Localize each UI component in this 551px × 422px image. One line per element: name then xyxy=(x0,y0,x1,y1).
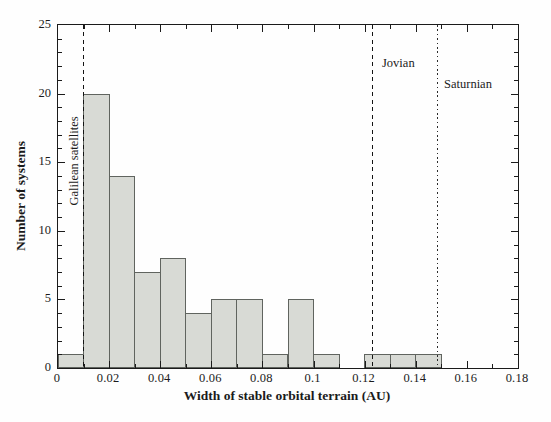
y-axis-tick xyxy=(58,66,62,67)
y-axis-tick xyxy=(58,190,62,191)
x-axis-tick xyxy=(186,25,187,29)
y-axis-tick xyxy=(58,272,62,273)
y-axis-tick xyxy=(58,148,62,149)
y-axis-tick xyxy=(58,52,62,53)
x-tick-label: 0.16 xyxy=(455,371,478,386)
x-tick-label: 0.06 xyxy=(199,371,222,386)
y-axis-tick xyxy=(514,341,518,342)
figure: Galilean satellitesJovianSaturnian Width… xyxy=(0,0,551,422)
y-axis-tick xyxy=(514,135,518,136)
reference-line-label: Saturnian xyxy=(444,77,492,92)
x-tick-label: 0.1 xyxy=(304,371,320,386)
x-tick-label: 0 xyxy=(54,371,60,386)
x-axis-tick xyxy=(262,361,263,368)
x-tick-label: 0.08 xyxy=(250,371,273,386)
x-axis-tick xyxy=(288,25,289,29)
x-axis-tick xyxy=(492,364,493,368)
x-axis-tick xyxy=(314,25,315,32)
reference-line-galilean-satellites xyxy=(83,25,85,368)
x-axis-tick xyxy=(262,25,263,32)
y-tick-label: 20 xyxy=(27,85,51,100)
reference-line-label: Galilean satellites xyxy=(67,116,82,205)
reference-line-jovian xyxy=(372,25,374,368)
x-axis-tick xyxy=(441,25,442,29)
y-axis-tick xyxy=(514,121,518,122)
y-tick-label: 10 xyxy=(27,222,51,237)
y-tick-label: 15 xyxy=(27,154,51,169)
histogram-bar xyxy=(160,258,187,368)
x-tick-label: 0.04 xyxy=(148,371,171,386)
x-axis-tick xyxy=(365,25,366,32)
x-axis-tick xyxy=(390,364,391,368)
y-axis-tick xyxy=(514,176,518,177)
x-axis-tick xyxy=(339,364,340,368)
y-axis-tick xyxy=(514,107,518,108)
x-axis-tick xyxy=(416,361,417,368)
x-axis-tick xyxy=(109,361,110,368)
x-axis-tick xyxy=(84,364,85,368)
histogram-bar xyxy=(236,299,263,368)
reference-line-label: Jovian xyxy=(382,56,415,71)
x-tick-label: 0.12 xyxy=(352,371,375,386)
y-axis-tick xyxy=(58,341,62,342)
x-axis-tick xyxy=(135,25,136,29)
y-axis-tick xyxy=(514,148,518,149)
y-axis-tick xyxy=(58,217,62,218)
y-axis-tick xyxy=(514,52,518,53)
histogram-bar xyxy=(364,354,391,368)
x-axis-tick xyxy=(160,361,161,368)
y-axis-tick xyxy=(58,162,65,163)
y-axis-tick xyxy=(58,313,62,314)
y-axis-tick xyxy=(514,327,518,328)
x-axis-tick xyxy=(365,361,366,368)
y-axis-tick xyxy=(58,135,62,136)
x-tick-label: 0.18 xyxy=(506,371,529,386)
histogram-bar xyxy=(390,354,417,368)
x-tick-label: 0.02 xyxy=(97,371,120,386)
x-axis-tick xyxy=(211,361,212,368)
y-axis-tick xyxy=(58,39,62,40)
y-axis-tick xyxy=(58,80,62,81)
y-axis-tick xyxy=(514,217,518,218)
y-axis-tick xyxy=(511,162,518,163)
y-axis-tick xyxy=(514,80,518,81)
x-axis-tick xyxy=(441,364,442,368)
x-axis-tick xyxy=(84,25,85,29)
y-axis-tick xyxy=(58,203,62,204)
histogram-bar xyxy=(58,354,85,368)
x-axis-tick xyxy=(416,25,417,32)
x-axis-tick xyxy=(339,25,340,29)
y-axis-tick xyxy=(511,94,518,95)
y-tick-label: 5 xyxy=(27,291,51,306)
y-axis-tick xyxy=(58,299,65,300)
x-axis-tick xyxy=(492,25,493,29)
y-axis-tick xyxy=(58,94,65,95)
x-axis-tick xyxy=(467,25,468,32)
y-axis-tick xyxy=(514,313,518,314)
x-axis-tick xyxy=(135,364,136,368)
y-axis-tick xyxy=(58,327,62,328)
histogram-bar xyxy=(262,354,289,368)
x-axis-tick xyxy=(467,361,468,368)
y-axis-tick xyxy=(514,258,518,259)
histogram-bar xyxy=(313,354,340,368)
histogram-bar xyxy=(211,299,238,368)
x-axis-tick xyxy=(186,364,187,368)
y-axis-tick xyxy=(58,258,62,259)
x-axis-tick xyxy=(237,25,238,29)
y-axis-tick xyxy=(511,299,518,300)
y-axis-tick xyxy=(511,231,518,232)
x-axis-title: Width of stable orbital terrain (AU) xyxy=(184,388,390,404)
y-axis-tick xyxy=(514,272,518,273)
y-axis-tick xyxy=(514,203,518,204)
histogram-bar xyxy=(288,299,315,368)
y-axis-tick xyxy=(58,121,62,122)
histogram-bar xyxy=(185,313,212,368)
y-axis-tick xyxy=(514,286,518,287)
y-tick-label: 25 xyxy=(27,17,51,32)
reference-line-saturnian xyxy=(437,25,438,368)
y-axis-tick xyxy=(514,245,518,246)
histogram-bar xyxy=(134,272,161,368)
y-axis-tick xyxy=(58,354,62,355)
x-axis-tick xyxy=(237,364,238,368)
